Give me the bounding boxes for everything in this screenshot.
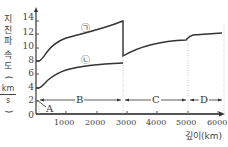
region-label-b: B (75, 95, 84, 105)
x-axis-arrow-icon (219, 112, 225, 117)
region-label-c: C (151, 95, 161, 105)
curve-label-1: ㉠ (81, 21, 90, 34)
region-label-d: D (199, 95, 209, 105)
y-axis-arrow-icon (34, 7, 38, 12)
curve-s-wave (36, 63, 123, 88)
plot-area (0, 0, 228, 147)
region-label-a: A (45, 104, 54, 114)
curve-label-2: ㉡ (81, 53, 90, 66)
curve-p-wave (36, 21, 222, 61)
seismic-velocity-chart: 지 진 파 속 도 ( km s ) 14 12 10 8 6 4 2 0 10… (0, 0, 228, 147)
